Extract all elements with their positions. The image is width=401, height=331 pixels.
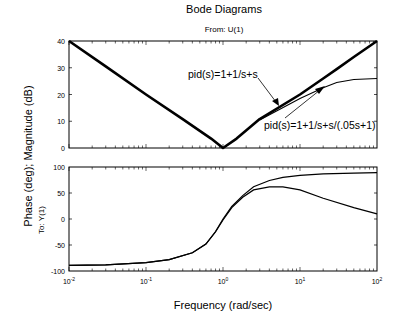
- svg-text:101: 101: [295, 276, 306, 285]
- from-label: From: U(1): [205, 25, 244, 34]
- svg-text:10: 10: [57, 118, 65, 125]
- svg-text:-50: -50: [55, 242, 65, 249]
- phase-panel: 100 50 0 -50 -100: [51, 164, 377, 275]
- phase-y-ticks: 100 50 0 -50 -100: [51, 164, 65, 275]
- annotation-pid1: pid(s)=1+1/s+s: [188, 68, 258, 80]
- x-axis-label: Frequency (rad/sec): [174, 299, 272, 311]
- svg-text:20: 20: [57, 92, 65, 99]
- annotations: pid(s)=1+1/s+s pid(s)=1+1/s+s/(.05s+1): [188, 68, 375, 131]
- to-label: To: Y(1): [37, 206, 46, 234]
- magnitude-y-ticks: 40 30 20 10 0: [57, 38, 65, 152]
- x-tick-labels: 10-2 10-1 100 101 102: [63, 276, 383, 285]
- y-axis-label: Phase (deg); Magnitude (dB): [22, 85, 34, 226]
- series-pid1-magnitude: [69, 41, 377, 148]
- magnitude-panel: 40 30 20 10 0: [57, 38, 377, 152]
- svg-text:-100: -100: [51, 268, 65, 275]
- svg-text:0: 0: [61, 145, 65, 152]
- arrow-head-icon: [272, 98, 279, 106]
- svg-text:102: 102: [372, 276, 383, 285]
- chart-title: Bode Diagrams: [186, 3, 262, 15]
- svg-text:100: 100: [218, 276, 229, 285]
- svg-text:50: 50: [57, 190, 65, 197]
- series-pid2-phase: [69, 187, 377, 265]
- svg-text:100: 100: [53, 164, 65, 171]
- svg-text:10-2: 10-2: [63, 276, 75, 285]
- svg-text:40: 40: [57, 38, 65, 45]
- svg-text:30: 30: [57, 65, 65, 72]
- bode-figure: Bode Diagrams From: U(1) Phase (deg); Ma…: [0, 0, 401, 331]
- svg-text:0: 0: [61, 216, 65, 223]
- annotation-pid2: pid(s)=1+1/s+s/(.05s+1): [264, 119, 375, 131]
- svg-text:10-1: 10-1: [140, 276, 152, 285]
